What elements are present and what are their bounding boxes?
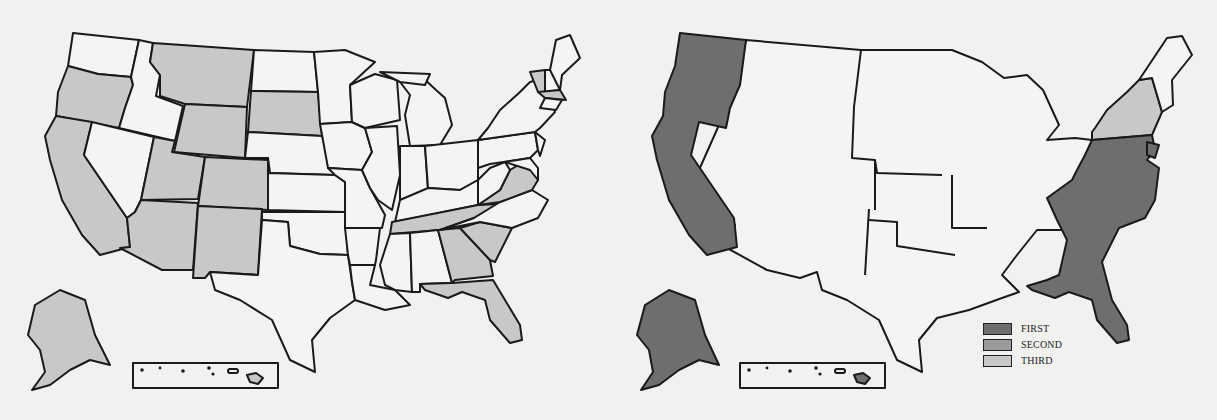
state-wisconsin [350,74,400,128]
state-alaska [28,290,110,390]
legend-swatch-third [983,355,1012,367]
state-florida [420,280,522,343]
state-arkansas [345,228,380,265]
state-colorado [198,157,268,210]
us-map-left [0,0,610,420]
legend-item-first: FIRST [983,321,1062,336]
state-iowa [320,122,372,170]
legend-swatch-first [983,323,1012,335]
legend-item-second: SECOND [983,337,1062,352]
region-northeast-third [1092,78,1162,140]
hawaii-inset [133,363,278,388]
legend-label-second: SECOND [1021,339,1062,350]
legend-swatch-second [983,339,1012,351]
state-kansas [268,173,345,212]
legend-label-third: THIRD [1021,355,1053,366]
legend-item-third: THIRD [983,353,1062,368]
legend-label-first: FIRST [1021,323,1049,334]
region-delaware-first [1147,142,1159,158]
state-alaska-first [637,290,719,390]
us-map-right [607,0,1217,420]
state-mississippi [380,233,412,292]
state-connecticut [540,98,562,110]
state-south-dakota [248,91,322,136]
state-ohio [425,140,478,190]
state-montana [150,43,254,107]
state-north-dakota [251,50,318,92]
map-legend: FIRST SECOND THIRD [983,321,1062,369]
state-new-mexico [193,206,262,278]
state-wyoming [174,104,247,158]
hawaii-inset-right [740,363,885,388]
